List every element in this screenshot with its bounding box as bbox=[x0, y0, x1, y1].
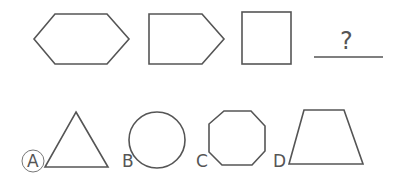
circle-shape bbox=[129, 112, 185, 168]
question-mark: ? bbox=[340, 27, 353, 55]
trapezoid-shape bbox=[289, 110, 363, 164]
option-d[interactable]: D bbox=[273, 110, 363, 171]
triangle-shape bbox=[45, 112, 108, 167]
octagon-shape bbox=[209, 111, 265, 165]
pentagon-shape bbox=[149, 14, 224, 64]
option-c[interactable]: C bbox=[196, 111, 265, 171]
hexagon-shape bbox=[34, 14, 129, 64]
option-b[interactable]: B bbox=[122, 112, 185, 171]
option-a-label: A bbox=[27, 151, 39, 171]
option-d-label: D bbox=[273, 151, 286, 171]
square-shape bbox=[242, 12, 291, 64]
shape-sequence-puzzle: ? A B C D bbox=[0, 0, 396, 187]
option-a[interactable]: A bbox=[22, 112, 108, 172]
option-c-label: C bbox=[196, 151, 208, 171]
